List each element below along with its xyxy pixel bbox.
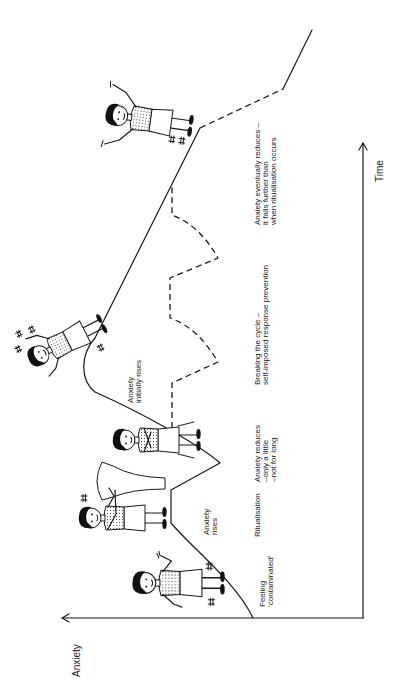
ocd-anxiety-cycle-diagram: Anxiety Time xyxy=(0,0,395,680)
label-ritualisation: Ritualisation xyxy=(253,493,262,537)
label-anxiety-initially-rises: Anxiety initially rises xyxy=(126,360,143,403)
label-line: self-imposed response prevention xyxy=(261,265,270,385)
person-feeling-contaminated-icon xyxy=(132,552,224,608)
label-line: Ritualisation xyxy=(253,493,262,537)
label-feeling-contaminated: Feeling ‘contaminated’ xyxy=(258,555,275,607)
axes: Anxiety Time xyxy=(62,143,385,677)
sink-icon xyxy=(97,462,165,500)
label-line: rises xyxy=(210,518,219,535)
label-line: initially rises xyxy=(134,360,143,403)
anxiety-curve-eventual-reduction xyxy=(200,89,283,128)
label-line: when ritualisation occurs xyxy=(269,137,278,226)
person-agitated-icon xyxy=(8,294,114,385)
label-anxiety-reduces: Anxiety reduces –only a little –not for … xyxy=(253,425,278,482)
anxiety-curve-response-prevention xyxy=(170,184,218,428)
label-breaking-the-cycle: Breaking the cycle – self-imposed respon… xyxy=(253,265,270,385)
time-axis-label: Time xyxy=(374,160,385,182)
label-line: –not for long xyxy=(269,438,278,482)
label-line: ‘contaminated’ xyxy=(266,555,275,607)
label-anxiety-eventually-reduces: Anxiety eventually reduces – it falls fu… xyxy=(253,123,278,226)
anxiety-axis-label: Anxiety xyxy=(71,644,82,677)
anxiety-curve-ritualisation xyxy=(84,128,253,618)
label-anxiety-rises: Anxiety rises xyxy=(202,509,219,535)
person-washing-at-sink-icon xyxy=(79,488,167,531)
anxiety-curve-tail xyxy=(283,30,312,89)
person-relieved-arms-raised-icon xyxy=(101,81,197,159)
